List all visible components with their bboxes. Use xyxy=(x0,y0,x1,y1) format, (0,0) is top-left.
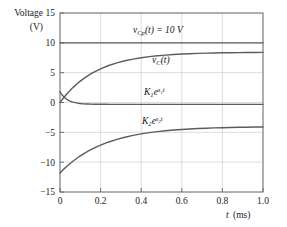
annotation-k2-text: K2es2t xyxy=(141,115,163,127)
y-tick-label: −15 xyxy=(40,187,55,197)
annotation-k1: K1es1t xyxy=(143,86,165,98)
figure-container: 15 10 5 0 −5 −10 −15 0 0.2 0.4 0.6 0.8 1… xyxy=(0,0,287,227)
y-tick-label: 10 xyxy=(46,38,56,48)
y-axis-title-line1: Voltage xyxy=(14,8,43,18)
x-tick-label: 0.4 xyxy=(135,196,147,206)
x-axis-title-var: t xyxy=(226,210,229,220)
series-k2-exponential xyxy=(60,127,263,173)
x-tick-label: 0.8 xyxy=(216,196,228,206)
y-tick-label: 5 xyxy=(50,68,55,78)
x-tick-label: 1.0 xyxy=(257,196,269,206)
x-tick-labels: 0 0.2 0.4 0.6 0.8 1.0 xyxy=(58,196,270,206)
annotation-k2-t: t xyxy=(161,115,163,122)
annotation-vc: vC(t) xyxy=(152,55,170,66)
y-tick-label: 0 xyxy=(50,98,55,108)
chart-svg: 15 10 5 0 −5 −10 −15 0 0.2 0.4 0.6 0.8 1… xyxy=(0,0,287,227)
y-tick-label: 15 xyxy=(46,8,56,18)
annotation-vcp-rest: (t) = 10 V xyxy=(145,25,184,36)
x-tick-label: 0 xyxy=(58,196,63,206)
y-axis-title: Voltage (V) xyxy=(14,8,43,32)
y-tick-label: −5 xyxy=(45,128,55,138)
x-tick-label: 0.2 xyxy=(95,196,107,206)
y-axis-title-line2: (V) xyxy=(30,22,43,33)
annotation-vc-rest: (t) xyxy=(161,55,170,66)
y-tick-labels: 15 10 5 0 −5 −10 −15 xyxy=(40,8,55,197)
annotation-k1-t: t xyxy=(163,86,165,93)
y-tick-label: −10 xyxy=(40,158,55,168)
annotation-k2: K2es2t xyxy=(141,115,163,127)
annotation-vcp: vCp(t) = 10 V xyxy=(133,25,184,36)
x-tickmarks xyxy=(60,188,263,192)
x-axis-title: t (ms) xyxy=(226,210,250,221)
x-axis-title-unit: (ms) xyxy=(233,210,250,221)
annotation-vc-text: vC(t) xyxy=(152,55,170,66)
annotation-vcp-text: vCp(t) = 10 V xyxy=(133,25,184,36)
x-tick-label: 0.6 xyxy=(176,196,188,206)
annotation-k1-text: K1es1t xyxy=(143,86,165,98)
